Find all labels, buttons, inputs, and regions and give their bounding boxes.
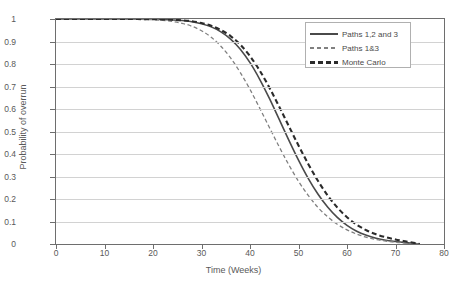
gridline: [56, 199, 444, 200]
y-tick-label: 0.1: [0, 218, 16, 227]
gridline: [56, 132, 444, 133]
x-tick-mark: [202, 245, 203, 249]
x-tick-label: 30: [182, 249, 222, 258]
y-axis-title: Probability of overrun: [18, 57, 28, 197]
gridline: [56, 87, 444, 88]
legend-label: Paths 1,2 and 3: [342, 30, 398, 39]
y-tick-label: 0.2: [0, 195, 16, 204]
legend-line-solid-icon: [310, 29, 338, 39]
legend-item-paths-1-and-3: Paths 1&3: [310, 42, 406, 54]
legend-item-paths-1-2-and-3: Paths 1,2 and 3: [310, 28, 406, 40]
y-tick-mark: [50, 199, 55, 200]
x-tick-label: 0: [36, 249, 76, 258]
legend-label: Monte Carlo: [342, 58, 386, 67]
legend-item-monte-carlo: Monte Carlo: [310, 56, 406, 68]
x-tick-mark: [444, 245, 445, 249]
x-tick-label: 70: [376, 249, 416, 258]
gridline: [56, 154, 444, 155]
legend-line-dashed-thick-icon: [310, 57, 338, 67]
y-tick-label: 0.8: [0, 60, 16, 69]
x-tick-mark: [299, 245, 300, 249]
legend-label: Paths 1&3: [342, 44, 379, 53]
y-tick-mark: [50, 19, 55, 20]
x-axis-title: Time (Weeks): [0, 265, 467, 275]
y-tick-mark: [50, 222, 55, 223]
x-tick-mark: [153, 245, 154, 249]
x-tick-mark: [56, 245, 57, 249]
x-tick-mark: [250, 245, 251, 249]
y-tick-mark: [50, 177, 55, 178]
y-tick-mark: [50, 42, 55, 43]
x-tick-mark: [105, 245, 106, 249]
y-tick-label: 0.3: [0, 173, 16, 182]
y-tick-mark: [50, 87, 55, 88]
y-tick-mark: [50, 109, 55, 110]
y-tick-mark: [50, 132, 55, 133]
overrun-probability-chart: 00.10.20.30.40.50.60.70.80.91 0102030405…: [0, 0, 467, 288]
y-tick-mark: [50, 64, 55, 65]
y-tick-mark: [50, 154, 55, 155]
x-tick-label: 10: [85, 249, 125, 258]
x-tick-label: 20: [133, 249, 173, 258]
gridline: [56, 222, 444, 223]
x-tick-label: 60: [327, 249, 367, 258]
gridline: [56, 109, 444, 110]
y-tick-label: 0.6: [0, 105, 16, 114]
chart-legend: Paths 1,2 and 3 Paths 1&3 Monte Carlo: [305, 22, 411, 68]
legend-line-dashed-thin-icon: [310, 43, 338, 53]
x-tick-label: 50: [279, 249, 319, 258]
y-tick-label: 0.4: [0, 150, 16, 159]
y-tick-label: 0.9: [0, 38, 16, 47]
gridline: [56, 177, 444, 178]
y-tick-label: 0.5: [0, 128, 16, 137]
y-tick-label: 1: [0, 15, 16, 24]
x-tick-mark: [396, 245, 397, 249]
x-tick-label: 40: [230, 249, 270, 258]
y-tick-label: 0: [0, 240, 16, 249]
y-tick-mark: [50, 244, 55, 245]
x-tick-label: 80: [424, 249, 464, 258]
x-tick-mark: [347, 245, 348, 249]
y-tick-label: 0.7: [0, 83, 16, 92]
